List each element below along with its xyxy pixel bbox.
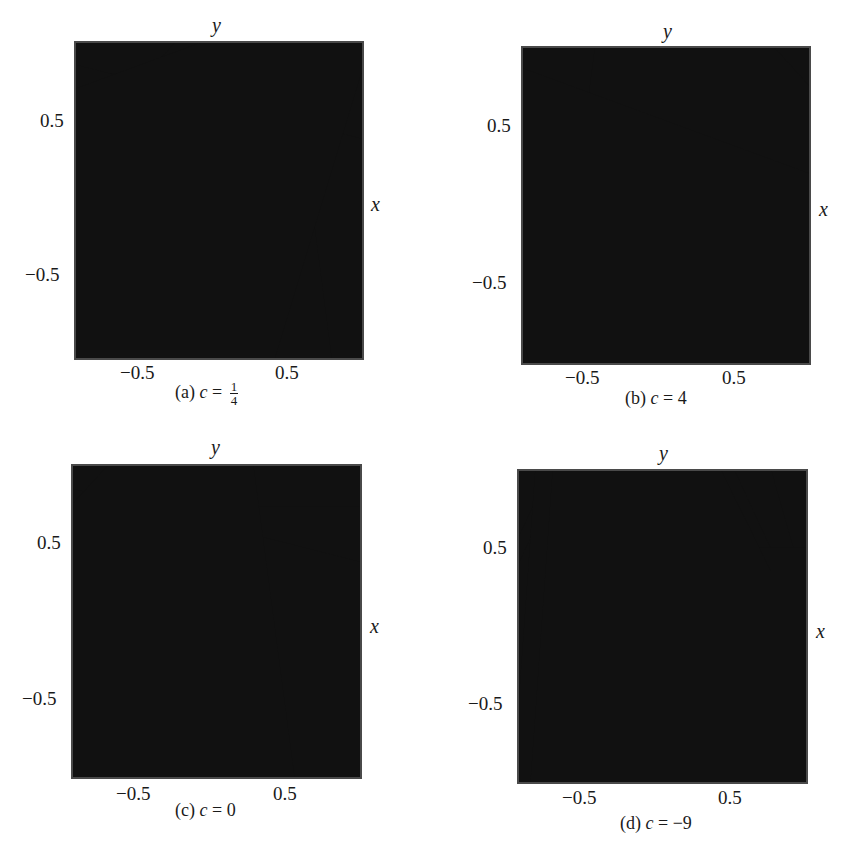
y-tick-label-neg: −0.5 [22, 688, 56, 710]
trajectory [586, 280, 719, 363]
caption-prefix: (d) [620, 813, 641, 833]
x-tick-label-neg: −0.5 [116, 783, 150, 805]
x-axis-label: x [371, 193, 380, 216]
trajectory [194, 622, 306, 778]
panel-b: y x 0.5 −0.5 −0.5 0.5 [420, 0, 847, 420]
x-tick-label-neg: −0.5 [120, 362, 154, 384]
x-tick-label-neg: −0.5 [565, 367, 599, 389]
panel-d: y x 0.5 −0.5 −0.5 0.5 [420, 420, 847, 857]
plot-area-d [517, 469, 808, 784]
y-axis-label: y [211, 436, 220, 459]
trajectory [76, 71, 225, 200]
caption-prefix: (b) [625, 388, 646, 408]
y-tick-label-pos: 0.5 [37, 532, 61, 554]
trajectory [115, 201, 219, 359]
y-axis-label: y [212, 14, 221, 37]
x-tick-label-pos: 0.5 [275, 362, 299, 384]
phase-portrait-a [76, 43, 362, 358]
caption-prefix: (a) [175, 382, 195, 402]
caption-var: c [646, 813, 654, 833]
x-tick-label-pos: 0.5 [718, 787, 742, 809]
trajectory [73, 471, 232, 622]
spiral-trajectory [627, 546, 683, 782]
y-tick-label-neg: −0.5 [468, 693, 502, 715]
phase-portrait-d [519, 471, 806, 782]
panel-a: y x 0.5 −0.5 −0.5 0.5 [0, 0, 420, 420]
y-axis-label: y [659, 442, 668, 465]
y-tick-label-neg: −0.5 [25, 264, 59, 286]
x-axis-label: x [816, 620, 825, 643]
trajectory [158, 201, 219, 359]
caption-value: 0 [227, 800, 236, 820]
trajectory [213, 622, 360, 718]
spiral-trajectory [607, 493, 692, 716]
x-tick-label-pos: 0.5 [722, 367, 746, 389]
x-axis-label: x [819, 198, 828, 221]
caption-prefix: (c) [175, 800, 195, 820]
caption-value: 4 [678, 388, 687, 408]
caption-eq: = [212, 800, 222, 820]
caption-var: c [199, 800, 207, 820]
caption-eq: = [663, 388, 673, 408]
caption-b: (b) c = 4 [625, 388, 687, 409]
caption-eq: = [212, 382, 222, 402]
caption-value: −9 [673, 813, 692, 833]
caption-fraction: 14 [230, 380, 239, 407]
y-tick-label-pos: 0.5 [483, 537, 507, 559]
x-tick-label-neg: −0.5 [562, 787, 596, 809]
plot-area-c [71, 464, 362, 779]
y-tick-label-pos: 0.5 [40, 110, 64, 132]
trajectory [73, 564, 217, 622]
plot-area-a [74, 41, 364, 360]
phase-portrait-b [523, 48, 809, 363]
y-axis-label: y [663, 20, 672, 43]
caption-a: (a) c = 14 [175, 380, 238, 407]
panel-c: y x 0.5 −0.5 −0.5 0.5 [0, 420, 420, 857]
y-tick-label-pos: 0.5 [487, 115, 511, 137]
x-tick-label-pos: 0.5 [273, 783, 297, 805]
caption-var: c [651, 388, 659, 408]
caption-eq: = [658, 813, 668, 833]
trajectory [694, 536, 718, 704]
phase-portrait-c [73, 466, 360, 777]
plot-area-b [521, 46, 811, 365]
caption-d: (d) c = −9 [620, 813, 692, 834]
caption-var: c [199, 382, 207, 402]
x-axis-label: x [370, 615, 379, 638]
caption-c: (c) c = 0 [175, 800, 236, 821]
y-tick-label-neg: −0.5 [472, 272, 506, 294]
